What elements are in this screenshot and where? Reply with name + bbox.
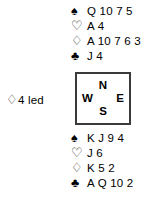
opening-lead-text: 4 led bbox=[18, 93, 44, 107]
north-hearts-row: ♡ A 4 bbox=[71, 19, 159, 34]
diamond-icon: ♢ bbox=[6, 93, 18, 107]
club-icon: ♣ bbox=[71, 49, 83, 64]
south-spades-cards: K J 9 4 bbox=[83, 131, 124, 146]
compass-label-east: E bbox=[116, 93, 124, 105]
north-clubs-cards: J 4 bbox=[83, 49, 103, 64]
south-diamonds-cards: K 5 2 bbox=[83, 161, 115, 176]
diamond-icon: ♢ bbox=[71, 34, 83, 49]
north-hand: ♠ Q 10 7 5 ♡ A 4 ♢ A 10 7 6 3 ♣ J 4 bbox=[71, 4, 159, 64]
south-hearts-cards: J 6 bbox=[83, 146, 103, 161]
compass-box: N W E S bbox=[75, 72, 131, 125]
spade-icon: ♠ bbox=[71, 4, 83, 19]
south-clubs-cards: A Q 10 2 bbox=[83, 176, 133, 191]
north-spades-cards: Q 10 7 5 bbox=[83, 4, 133, 19]
diamond-icon: ♢ bbox=[71, 161, 83, 176]
compass-label-south: S bbox=[77, 106, 129, 118]
south-spades-row: ♠ K J 9 4 bbox=[71, 131, 159, 146]
heart-icon: ♡ bbox=[71, 19, 83, 34]
south-hand: ♠ K J 9 4 ♡ J 6 ♢ K 5 2 ♣ A Q 10 2 bbox=[71, 131, 159, 191]
south-diamonds-row: ♢ K 5 2 bbox=[71, 161, 159, 176]
south-clubs-row: ♣ A Q 10 2 bbox=[71, 176, 159, 191]
north-clubs-row: ♣ J 4 bbox=[71, 49, 159, 64]
north-hearts-cards: A 4 bbox=[83, 19, 104, 34]
opening-lead-annotation: ♢ 4 led bbox=[6, 93, 44, 107]
heart-icon: ♡ bbox=[71, 146, 83, 161]
spade-icon: ♠ bbox=[71, 131, 83, 146]
compass-label-west: W bbox=[82, 93, 93, 105]
north-spades-row: ♠ Q 10 7 5 bbox=[71, 4, 159, 19]
bridge-deal-diagram: ♠ Q 10 7 5 ♡ A 4 ♢ A 10 7 6 3 ♣ J 4 N W … bbox=[0, 0, 159, 201]
club-icon: ♣ bbox=[71, 176, 83, 191]
north-diamonds-cards: A 10 7 6 3 bbox=[83, 34, 141, 49]
south-hearts-row: ♡ J 6 bbox=[71, 146, 159, 161]
compass-label-north: N bbox=[77, 80, 129, 92]
north-diamonds-row: ♢ A 10 7 6 3 bbox=[71, 34, 159, 49]
